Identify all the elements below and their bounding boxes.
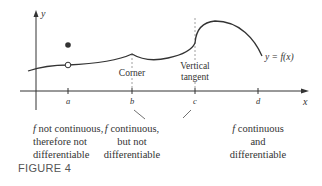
tick-label-a: a	[66, 96, 70, 106]
x-axis-label: x	[302, 96, 308, 107]
pointer-line-b	[134, 110, 145, 119]
vertical-tangent-label-line2: tangent	[181, 72, 209, 82]
y-axis-label: y	[40, 8, 46, 19]
filled-point	[65, 42, 71, 48]
caption-continuous-differentiable: f continuous and differentiable	[208, 122, 308, 161]
y-axis-arrow-icon	[34, 10, 39, 17]
tick-label-c: c	[193, 96, 197, 106]
pointer-line-c	[183, 110, 191, 118]
tick-label-b: b	[130, 96, 134, 106]
function-curve	[28, 21, 262, 71]
caption-text: continuous and differentiable	[230, 123, 286, 160]
caption-text: continuous, but not differentiable	[104, 123, 160, 160]
curve-label: y = f(x)	[264, 52, 294, 63]
tick-label-d: d	[256, 96, 261, 106]
open-point	[65, 62, 71, 68]
x-axis-arrow-icon	[301, 89, 309, 94]
vertical-tangent-label-line1: Vertical	[180, 61, 210, 71]
corner-label: Corner	[119, 68, 146, 78]
figure-label: FIGURE 4	[18, 162, 71, 174]
caption-continuous-not-differentiable: f continuous, but not differentiable	[72, 122, 192, 161]
